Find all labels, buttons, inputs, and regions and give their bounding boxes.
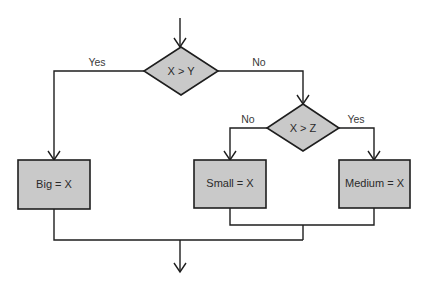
exit-arrow xyxy=(174,240,186,272)
process-medium: Medium = X xyxy=(339,160,410,208)
edge-label-d2-no: No xyxy=(241,113,255,125)
edge-label-d1-yes: Yes xyxy=(88,56,105,68)
decision-x-gt-z-label: X > Z xyxy=(290,122,317,134)
process-medium-label: Medium = X xyxy=(345,177,405,189)
edge-d2-no: No xyxy=(224,113,267,160)
process-big: Big = X xyxy=(18,160,90,209)
edge-label-d1-no: No xyxy=(252,56,266,68)
entry-arrow xyxy=(174,18,186,47)
edge-label-d2-yes: Yes xyxy=(347,113,364,125)
decision-x-gt-y-label: X > Y xyxy=(167,65,195,77)
edge-d1-yes: Yes xyxy=(48,56,144,160)
edge-d1-no: No xyxy=(218,56,309,104)
process-big-label: Big = X xyxy=(36,178,72,190)
flowchart-canvas: X > Y Yes No X > Z No Yes Big = X Small … xyxy=(0,0,423,288)
decision-x-gt-y: X > Y xyxy=(144,47,218,95)
merge-connectors xyxy=(54,208,374,240)
decision-x-gt-z: X > Z xyxy=(267,104,339,151)
process-small-label: Small = X xyxy=(206,177,254,189)
process-small: Small = X xyxy=(194,160,266,208)
edge-d2-yes: Yes xyxy=(339,113,380,160)
